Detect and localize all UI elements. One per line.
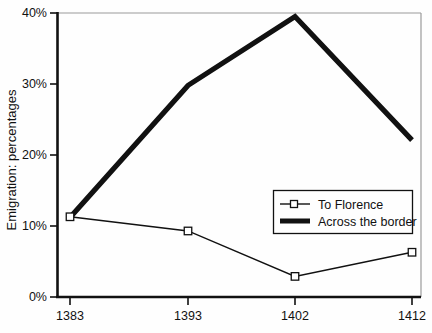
x-tick-label-1383: 1383: [56, 309, 84, 323]
x-tick-label-1393: 1393: [174, 309, 202, 323]
y-tick-label-40: 40%: [22, 6, 47, 20]
data-point-marker: [184, 227, 192, 235]
x-tick-label-1412: 1412: [398, 309, 426, 323]
legend: To Florence Across the border: [274, 191, 417, 234]
legend-swatch-square-to-florence: [291, 201, 298, 208]
x-tick-label-1402: 1402: [281, 309, 309, 323]
y-tick-label-0: 0%: [29, 290, 47, 304]
y-tick-label-30: 30%: [22, 77, 47, 91]
y-tick-label-10: 10%: [22, 219, 47, 233]
y-axis-title: Emigration: percentages: [4, 89, 19, 230]
emigration-line-chart: 40% 30% 20% 10% 0% 1383 1393 1402 1412 E…: [0, 0, 432, 333]
legend-label-across-the-border: Across the border: [318, 215, 417, 229]
data-point-marker: [66, 213, 74, 221]
legend-label-to-florence: To Florence: [318, 198, 383, 212]
data-point-marker: [408, 249, 416, 257]
data-point-marker: [291, 273, 299, 281]
chart-canvas: 40% 30% 20% 10% 0% 1383 1393 1402 1412 E…: [0, 0, 432, 333]
y-tick-label-20: 20%: [22, 148, 47, 162]
chart-background: [0, 0, 432, 333]
